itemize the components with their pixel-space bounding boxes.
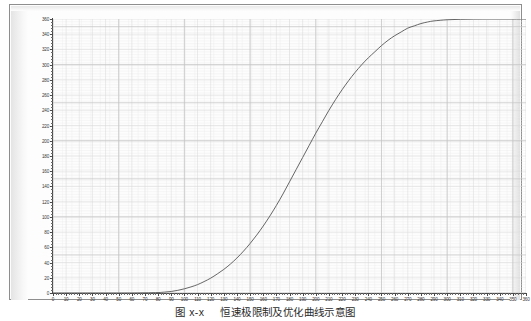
x-axis-tick-label: 10	[64, 297, 69, 302]
x-axis-minor-tick-mark	[521, 293, 522, 295]
x-axis-tick-label: 20	[77, 297, 82, 302]
y-axis-tick-label: 240	[30, 108, 49, 113]
figure-caption: 图 x-x恒速极限制及优化曲线示意图	[0, 304, 531, 319]
x-axis-minor-tick-mark	[127, 293, 128, 295]
x-axis-tick-label: 330	[483, 297, 490, 302]
x-axis-tick-mark	[158, 293, 159, 296]
x-axis-tick-label: 200	[312, 297, 319, 302]
x-axis-minor-tick-mark	[113, 293, 114, 295]
x-axis-tick-label: 60	[129, 297, 134, 302]
x-axis-minor-tick-mark	[350, 293, 351, 295]
x-axis-minor-tick-mark	[387, 293, 388, 295]
x-axis-tick-mark	[434, 293, 435, 296]
x-axis-tick-label: 90	[169, 297, 174, 302]
x-axis-minor-tick-mark	[98, 293, 99, 295]
x-axis-minor-tick-mark	[502, 293, 503, 295]
x-axis-minor-tick-mark	[111, 293, 112, 295]
x-axis-minor-tick-mark	[410, 293, 411, 295]
x-axis-minor-tick-mark	[64, 293, 65, 295]
x-axis-minor-tick-mark	[282, 293, 283, 295]
x-axis-minor-tick-mark	[360, 293, 361, 295]
x-axis-minor-tick-mark	[397, 293, 398, 295]
x-axis-minor-tick-mark	[379, 293, 380, 295]
x-axis-minor-tick-mark	[85, 293, 86, 295]
x-axis-minor-tick-mark	[253, 293, 254, 295]
x-axis-minor-tick-mark	[326, 293, 327, 295]
x-axis-tick-mark	[250, 293, 251, 296]
x-axis-tick-label: 0	[52, 297, 54, 302]
x-axis-minor-tick-mark	[413, 293, 414, 295]
x-axis-minor-tick-mark	[515, 293, 516, 295]
x-axis-minor-tick-mark	[489, 293, 490, 295]
x-axis-tick-label: 230	[352, 297, 359, 302]
x-axis-minor-tick-mark	[510, 293, 511, 295]
x-axis-tick-label: 150	[247, 297, 254, 302]
x-axis-tick-mark	[224, 293, 225, 296]
x-axis-minor-tick-mark	[169, 293, 170, 295]
x-axis-tick-label: 270	[404, 297, 411, 302]
x-axis-minor-tick-mark	[200, 293, 201, 295]
x-axis-tick-label: 290	[430, 297, 437, 302]
x-axis-minor-tick-mark	[389, 293, 390, 295]
x-axis-tick-label: 50	[116, 297, 121, 302]
x-axis-tick-label: 180	[286, 297, 293, 302]
figure-caption-text: 恒速极限制及优化曲线示意图	[220, 306, 355, 318]
y-axis-tick-label: 120	[30, 199, 49, 204]
x-axis-minor-tick-mark	[247, 293, 248, 295]
x-axis-tick-label: 170	[273, 297, 280, 302]
x-axis-tick-mark	[368, 293, 369, 296]
x-axis-minor-tick-mark	[374, 293, 375, 295]
x-axis-tick-mark	[106, 293, 107, 296]
x-axis-minor-tick-mark	[229, 293, 230, 295]
x-axis-tick-label: 190	[299, 297, 306, 302]
x-axis-minor-tick-mark	[492, 293, 493, 295]
x-axis-minor-tick-mark	[497, 293, 498, 295]
x-axis-tick-mark	[355, 293, 356, 296]
x-axis-minor-tick-mark	[518, 293, 519, 295]
x-axis-minor-tick-mark	[140, 293, 141, 295]
x-axis-minor-tick-mark	[234, 293, 235, 295]
y-axis-tick-label: 0	[30, 291, 49, 296]
y-axis-tick-label: 80	[30, 230, 49, 235]
x-axis-minor-tick-mark	[376, 293, 377, 295]
x-axis-tick-label: 110	[194, 297, 201, 302]
x-axis-tick-label: 160	[260, 297, 267, 302]
x-axis-minor-tick-mark	[71, 293, 72, 295]
x-axis-minor-tick-mark	[87, 293, 88, 295]
x-axis-minor-tick-mark	[345, 293, 346, 295]
x-axis-tick-label: 80	[156, 297, 161, 302]
y-axis-tick-label: 280	[30, 77, 49, 82]
plot-area	[53, 19, 526, 293]
x-axis-minor-tick-mark	[137, 293, 138, 295]
x-axis-tick-mark	[342, 293, 343, 296]
x-axis-minor-tick-mark	[192, 293, 193, 295]
x-axis-minor-tick-mark	[150, 293, 151, 295]
x-axis-minor-tick-mark	[287, 293, 288, 295]
x-axis-minor-tick-mark	[366, 293, 367, 295]
y-axis-tick-label: 260	[30, 93, 49, 98]
y-axis-tick-label: 220	[30, 123, 49, 128]
x-axis-minor-tick-mark	[384, 293, 385, 295]
y-axis-tick-label: 140	[30, 184, 49, 189]
x-axis-minor-tick-mark	[463, 293, 464, 295]
x-axis-minor-tick-mark	[424, 293, 425, 295]
x-axis-tick-label: 320	[470, 297, 477, 302]
x-axis-minor-tick-mark	[232, 293, 233, 295]
x-axis-minor-tick-mark	[292, 293, 293, 295]
x-axis-tick-label: 100	[181, 297, 188, 302]
x-axis-tick-mark	[381, 293, 382, 296]
x-axis-tick-mark	[79, 293, 80, 296]
x-axis-minor-tick-mark	[479, 293, 480, 295]
x-axis-minor-tick-mark	[297, 293, 298, 295]
x-axis-tick-label: 120	[207, 297, 214, 302]
x-axis-minor-tick-mark	[187, 293, 188, 295]
x-axis-minor-tick-mark	[219, 293, 220, 295]
x-axis-tick-mark	[119, 293, 120, 296]
x-axis-tick-mark	[460, 293, 461, 296]
x-axis-minor-tick-mark	[221, 293, 222, 295]
x-axis-minor-tick-mark	[155, 293, 156, 295]
x-axis-minor-tick-mark	[61, 293, 62, 295]
x-axis-minor-tick-mark	[426, 293, 427, 295]
x-axis-tick-mark	[473, 293, 474, 296]
x-axis-minor-tick-mark	[274, 293, 275, 295]
